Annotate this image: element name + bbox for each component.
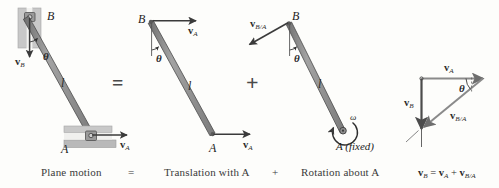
theta-label-panel1: θ: [43, 51, 49, 62]
fixed-pin-center: [342, 130, 344, 132]
caption-rotation: Rotation about A: [301, 166, 379, 178]
vb-label-panel1: vB: [15, 56, 25, 69]
rigid-bar-ab-panel3: [286, 22, 345, 132]
vb-label-triangle: vB: [404, 97, 414, 110]
panel4-velocity-triangle-graphics: [406, 77, 483, 147]
point-label-a-panel1: A: [61, 142, 68, 157]
joint-a-panel2: [211, 132, 215, 136]
triangle-origin-node: [420, 77, 423, 80]
va-label-bottom-panel2: vA: [243, 139, 253, 152]
collar-block-a: [86, 131, 97, 141]
theta-label-triangle: θ: [459, 83, 465, 94]
va-label-triangle: vA: [444, 62, 454, 75]
point-label-b-panel2: B: [138, 12, 145, 27]
theta-arc-panel2: [152, 47, 159, 50]
vector-equation: vB = vA + vB/A: [418, 167, 476, 180]
theta-label-panel2: θ: [156, 53, 162, 64]
joint-b-panel3: [287, 21, 291, 25]
fixed-pin-a: [340, 127, 347, 134]
length-label-panel2: l: [188, 80, 191, 92]
vertical-guide-slot: [18, 8, 41, 48]
length-label-panel3: l: [318, 78, 321, 90]
theta-arc-triangle: [466, 79, 471, 90]
joint-b-panel2: [149, 20, 153, 24]
vba-label-triangle: vB/A: [450, 110, 467, 123]
relative-velocity-figure: B vB θ l A vA = B vA θ l A vA + vB/A B θ…: [0, 0, 499, 188]
caption-plane-motion: Plane motion: [41, 166, 102, 178]
theta-arc-panel3: [290, 47, 297, 50]
point-label-a-panel2: A: [209, 141, 216, 156]
caption-equals: =: [128, 166, 134, 178]
vba-label-panel3: vB/A: [250, 18, 267, 31]
slant-reference-triangle: [406, 131, 419, 143]
rigid-bar-ab-panel2: [148, 21, 215, 136]
caption-plus: +: [272, 166, 278, 178]
panel3-rotation-graphics: [250, 21, 358, 145]
point-label-a-panel3: A (fixed): [336, 140, 374, 152]
va-label-top-panel2: vA: [188, 25, 198, 38]
equals-operator: =: [112, 72, 123, 95]
plus-operator: +: [246, 70, 259, 96]
collar-block-b: [25, 13, 36, 22]
panel2-translation-graphics: [148, 20, 250, 137]
omega-label-panel3: ω: [350, 113, 356, 122]
point-label-b-panel1: B: [47, 9, 54, 24]
theta-label-panel3: θ: [294, 53, 300, 64]
va-label-panel1: vA: [120, 139, 130, 152]
horizontal-guide-a: [64, 126, 116, 148]
length-label-panel1: l: [61, 77, 64, 89]
theta-arc-panel1: [30, 38, 38, 42]
caption-translation: Translation with A: [164, 166, 250, 178]
panel1-plane-motion-graphics: [18, 8, 127, 148]
rigid-bar-ab: [23, 16, 93, 136]
point-label-b-panel3: B: [292, 9, 299, 24]
